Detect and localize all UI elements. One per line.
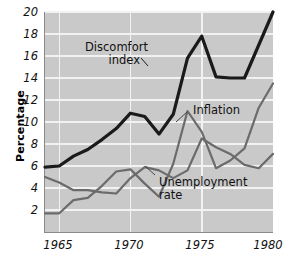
chart-figure: Percentage 20 18 16 14 12 10 8 6 4 2 196…: [0, 0, 289, 264]
y-tick-label: 6: [0, 161, 38, 173]
x-tick-label: 1975: [185, 240, 214, 252]
y-tick-label: 4: [0, 183, 38, 195]
x-tick-label: 1980: [253, 240, 282, 252]
y-tick-label: 2: [0, 205, 38, 217]
y-tick-label: 16: [0, 51, 38, 63]
annotation-line-2: rate: [159, 189, 247, 202]
annotation-leader-lines: [141, 58, 187, 175]
y-tick-label: 10: [0, 117, 38, 129]
annotation-inflation: Inflation: [193, 104, 240, 117]
annotation-line-1: Inflation: [193, 104, 240, 117]
y-tick-label: 14: [0, 73, 38, 85]
annotation-line-1: Discomfort: [85, 41, 140, 54]
series-line-discomfort-index: [45, 12, 273, 167]
x-tick-label: 1965: [43, 240, 72, 252]
y-tick-label: 18: [0, 29, 38, 41]
annotation-discomfort-index: Discomfort index: [85, 41, 140, 67]
annotation-line-1: Unemployment: [159, 176, 247, 189]
y-tick-label: 20: [0, 7, 38, 19]
y-tick-label: 8: [0, 139, 38, 151]
y-tick-label: 12: [0, 95, 38, 107]
annotation-line-2: index: [85, 54, 140, 67]
x-tick-label: 1970: [114, 240, 143, 252]
annotation-unemployment-rate: Unemployment rate: [159, 176, 247, 202]
